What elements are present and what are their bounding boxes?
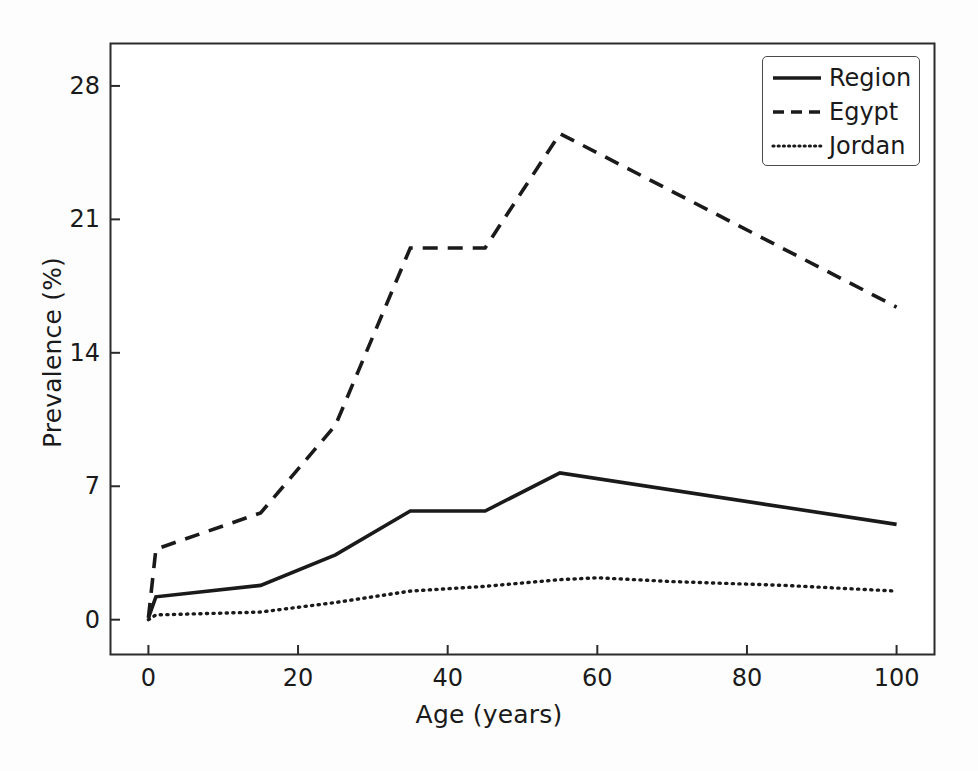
legend-line-dashed-icon — [771, 102, 823, 122]
y-axis-label: Prevalence (%) — [38, 43, 67, 663]
legend-entry-jordan[interactable]: Jordan — [763, 129, 921, 163]
x-tick-label: 80 — [732, 664, 763, 692]
legend-line-dotted-icon — [771, 136, 823, 156]
x-tick-label: 20 — [283, 664, 314, 692]
y-axis-label-text: Prevalence (%) — [38, 257, 67, 448]
x-axis-label: Age (years) — [0, 700, 978, 729]
x-tick-label: 40 — [432, 664, 463, 692]
legend-entry-egypt[interactable]: Egypt — [763, 95, 921, 129]
figure-canvas: 07142128 020406080100 Prevalence (%) Age… — [0, 0, 978, 771]
x-tick-label: 100 — [874, 664, 920, 692]
legend-entry-region[interactable]: Region — [763, 61, 921, 95]
legend-label-egypt: Egypt — [829, 100, 898, 124]
x-tick-label: 0 — [141, 664, 156, 692]
legend-label-jordan: Jordan — [829, 134, 905, 158]
legend-label-region: Region — [829, 66, 911, 90]
legend-line-solid-icon — [771, 68, 823, 88]
x-tick-label: 60 — [582, 664, 613, 692]
legend[interactable]: Region Egypt Jordan — [762, 56, 920, 166]
